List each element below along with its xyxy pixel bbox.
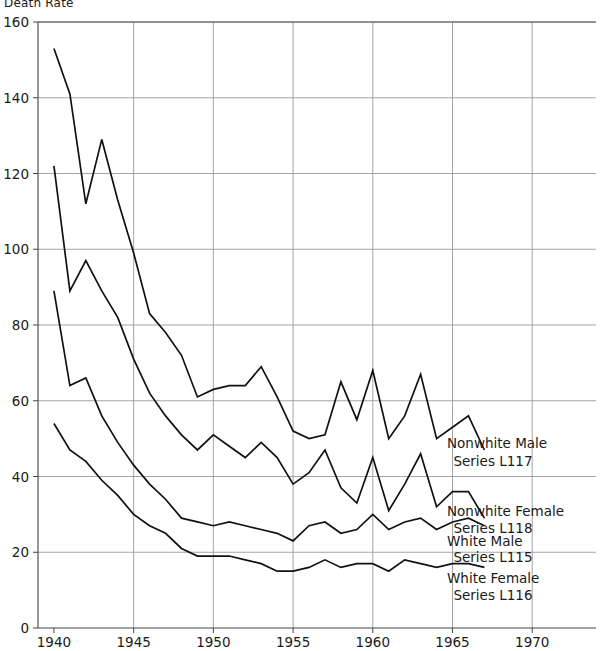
y-tick-label-100: 100 [3,241,29,257]
y-tick-labels: 020406080100120140160 [3,14,38,636]
y-tick-label-140: 140 [3,90,29,106]
y-tick-label-40: 40 [12,469,29,485]
x-tick-label-1945: 1945 [116,634,150,650]
series-label-series-l115-line1: White Male [447,533,523,549]
x-tick-label-1940: 1940 [37,634,71,650]
series-label-series-l116-line2: Series L116 [453,587,532,603]
x-tick-label-1970: 1970 [515,634,549,650]
x-tick-label-1950: 1950 [196,634,230,650]
series-line-series-l118 [54,166,484,518]
series-line-series-l115 [54,291,484,541]
series-label-series-l115-line2: Series L115 [453,549,532,565]
y-tick-label-120: 120 [3,166,29,182]
y-tick-label-20: 20 [12,544,29,560]
chart-figure: Death Rate 020406080100120140160 1940194… [0,0,604,651]
series-label-series-l118-line1: Nonwhite Female [447,503,564,519]
series-label-series-l116-line1: White Female [447,570,539,586]
x-tick-labels: 1940194519501955196019651970 [37,628,550,650]
series-label-series-l117-line1: Nonwhite Male [447,435,547,451]
series-line-series-l116 [54,423,484,571]
line-chart-svg: 020406080100120140160 194019451950195519… [0,0,604,651]
x-tick-label-1960: 1960 [356,634,390,650]
y-tick-label-160: 160 [3,14,29,30]
series-lines [54,49,484,572]
x-tick-label-1955: 1955 [276,634,310,650]
y-tick-label-80: 80 [12,317,29,333]
y-axis-title: Death Rate [4,0,74,10]
y-tick-label-0: 0 [20,620,29,636]
x-tick-label-1965: 1965 [435,634,469,650]
series-label-series-l117-line2: Series L117 [453,453,532,469]
y-tick-label-60: 60 [12,393,29,409]
